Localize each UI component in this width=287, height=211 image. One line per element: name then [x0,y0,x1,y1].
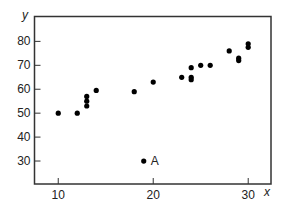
data-point [151,79,156,84]
point-annotation-label: A [151,154,159,168]
data-point [84,99,89,104]
x-tick-label: 10 [52,188,66,202]
y-tick-label: 40 [17,130,31,144]
data-point [179,75,184,80]
y-tick-label: 70 [17,58,31,72]
data-point [189,75,194,80]
x-axis-label: x [263,185,271,199]
data-point [189,65,194,70]
data-point [75,111,80,116]
data-point [227,48,232,53]
x-axis-ticks: 102030 [52,178,256,202]
x-tick-label: 20 [147,188,161,202]
data-point [236,56,241,61]
y-tick-label: 80 [17,34,31,48]
data-point [84,94,89,99]
y-tick-label: 30 [17,154,31,168]
annotations: A [151,154,159,168]
y-axis-label: y [21,8,29,22]
data-point [208,63,213,68]
data-point [94,88,99,93]
data-point [141,158,146,163]
data-point [84,103,89,108]
data-point [132,89,137,94]
data-point [56,111,61,116]
scatter-chart: 304050607080 102030 y x A [0,0,287,211]
y-tick-label: 50 [17,106,31,120]
data-points [56,41,251,163]
data-point [198,63,203,68]
y-tick-label: 60 [17,82,31,96]
data-point [246,41,251,46]
y-axis-ticks: 304050607080 [17,34,40,168]
x-tick-label: 30 [242,188,256,202]
